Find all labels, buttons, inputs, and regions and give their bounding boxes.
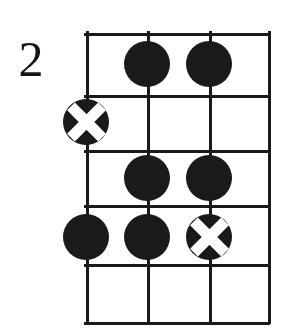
x-marker-string3-fret4: [186, 214, 232, 260]
fret-line-4: [84, 264, 270, 267]
filled-dot-string2-fret1: [124, 41, 170, 87]
fretboard-grid: [86, 33, 268, 322]
chord-diagram-canvas: 2: [0, 0, 292, 331]
filled-dot-string2-fret4: [124, 214, 170, 260]
filled-dot-string3-fret1: [186, 41, 232, 87]
fret-line-2: [84, 150, 270, 153]
string-line-4: [268, 31, 271, 324]
fret-line-3: [84, 205, 270, 208]
fret-line-1: [84, 95, 270, 98]
fret-line-5: [84, 322, 270, 325]
filled-dot-string3-fret3: [186, 155, 232, 201]
fret-line-0: [84, 33, 270, 36]
x-marker-string1-fret2: [63, 99, 109, 145]
starting-fret-number: 2: [10, 31, 52, 87]
filled-dot-string1-fret4: [63, 214, 109, 260]
string-line-1: [86, 31, 89, 324]
filled-dot-string2-fret3: [124, 155, 170, 201]
